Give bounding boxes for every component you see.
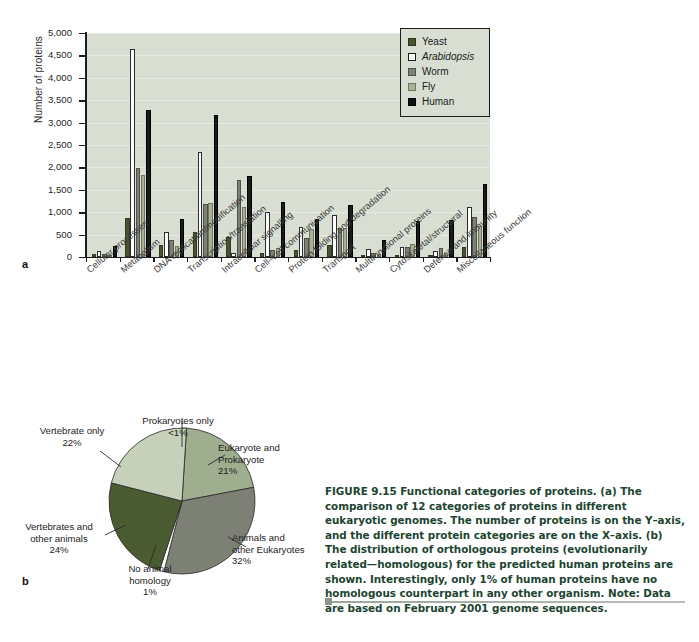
y-tick-mark bbox=[79, 55, 85, 56]
legend-label: Human bbox=[422, 97, 454, 107]
panel-a-bar-chart: Number of proteins 5,0004,5004,0003,5003… bbox=[0, 0, 699, 385]
bar-worm-2 bbox=[169, 240, 173, 257]
bar-fly-1 bbox=[141, 175, 145, 257]
bar-human-6 bbox=[315, 219, 319, 257]
bar-group bbox=[361, 33, 387, 257]
x-tick-mark bbox=[456, 257, 457, 262]
x-tick-mark bbox=[490, 257, 491, 262]
bar-fly-2 bbox=[175, 246, 179, 257]
bar-worm-4 bbox=[237, 180, 241, 258]
y-tick-mark bbox=[79, 167, 85, 168]
pie-label-vertebrates-other-animals: Vertebrates andother animals24% bbox=[5, 521, 113, 556]
y-tick-label: 0 bbox=[26, 252, 72, 262]
legend-swatch-icon bbox=[408, 53, 416, 61]
bar-arabidopsis-2 bbox=[164, 232, 168, 257]
y-tick-label: 2,000 bbox=[26, 162, 72, 172]
bar-arabidopsis-1 bbox=[130, 49, 134, 257]
bar-human-11 bbox=[483, 184, 487, 257]
bar-worm-7 bbox=[338, 228, 342, 257]
panel-b-letter: b bbox=[22, 575, 29, 587]
bar-human-3 bbox=[214, 115, 218, 257]
bar-group bbox=[193, 33, 219, 257]
bar-yeast-1 bbox=[125, 218, 129, 257]
bar-group bbox=[327, 33, 353, 257]
bar-fly-7 bbox=[343, 228, 347, 257]
figure-caption: FIGURE 9.15 Functional categories of pro… bbox=[325, 484, 687, 615]
bar-yeast-4 bbox=[226, 237, 230, 257]
bar-group bbox=[260, 33, 286, 257]
y-tick-mark bbox=[79, 33, 85, 34]
x-tick-mark bbox=[221, 257, 222, 262]
pie-label-text: other animals bbox=[5, 533, 113, 545]
bar-human-8 bbox=[382, 240, 386, 257]
pie-label-text: homology bbox=[96, 575, 204, 587]
x-tick-mark bbox=[86, 257, 87, 262]
y-tick-label: 1,500 bbox=[26, 185, 72, 195]
chart-legend: YeastArabidopsisWormFlyHuman bbox=[400, 28, 490, 117]
bar-fly-3 bbox=[208, 203, 212, 257]
bar-yeast-2 bbox=[159, 245, 163, 257]
legend-item-yeast: Yeast bbox=[408, 35, 482, 49]
y-tick-label: 4,500 bbox=[26, 50, 72, 60]
pie-label-percent: 22% bbox=[22, 437, 122, 449]
bar-worm-3 bbox=[203, 204, 207, 257]
legend-item-worm: Worm bbox=[408, 65, 482, 79]
y-tick-label: 1,000 bbox=[26, 207, 72, 217]
legend-label: Yeast bbox=[422, 37, 447, 47]
legend-item-fly: Fly bbox=[408, 80, 482, 94]
y-tick-label: 500 bbox=[26, 230, 72, 240]
bar-human-1 bbox=[146, 110, 150, 257]
bar-fly-4 bbox=[242, 207, 246, 257]
y-tick-label: 4,000 bbox=[26, 73, 72, 83]
y-tick-label: 5,000 bbox=[26, 28, 72, 38]
bar-fly-9 bbox=[410, 244, 414, 257]
x-tick-mark bbox=[355, 257, 356, 262]
y-tick-mark bbox=[79, 145, 85, 146]
bar-human-5 bbox=[281, 202, 285, 257]
y-tick-mark bbox=[79, 100, 85, 101]
y-tick-mark bbox=[79, 123, 85, 124]
bar-worm-1 bbox=[136, 168, 140, 257]
bar-fly-6 bbox=[309, 229, 313, 257]
x-tick-mark bbox=[423, 257, 424, 262]
legend-label: Arabidopsis bbox=[422, 52, 474, 62]
figure-number: FIGURE 9.15 bbox=[325, 485, 397, 497]
y-tick-mark bbox=[79, 212, 85, 213]
x-tick-mark bbox=[288, 257, 289, 262]
y-tick-mark bbox=[79, 235, 85, 236]
bar-group bbox=[226, 33, 252, 257]
x-tick-mark bbox=[322, 257, 323, 262]
pie-label-no-animal-homology: No animalhomology1% bbox=[96, 563, 204, 598]
bar-group bbox=[159, 33, 185, 257]
x-tick-mark bbox=[120, 257, 121, 262]
y-axis-tick-labels: 5,0004,5004,0003,5003,0002,5002,0001,500… bbox=[26, 0, 72, 260]
bar-arabidopsis-7 bbox=[332, 215, 336, 257]
bar-human-7 bbox=[348, 205, 352, 257]
bar-worm-6 bbox=[304, 238, 308, 257]
y-tick-mark bbox=[79, 78, 85, 79]
pie-label-percent: 24% bbox=[5, 544, 113, 556]
bar-human-4 bbox=[247, 176, 251, 257]
bar-fly-11 bbox=[478, 226, 482, 257]
bar-worm-11 bbox=[472, 217, 476, 257]
legend-label: Fly bbox=[422, 82, 435, 92]
y-tick-mark bbox=[79, 257, 85, 258]
pie-label-vertebrate-only: Vertebrate only22% bbox=[22, 425, 122, 448]
caption-body: Functional categories of proteins. (a) T… bbox=[325, 485, 685, 614]
pie-label-text: No animal bbox=[96, 563, 204, 575]
bar-arabidopsis-3 bbox=[198, 152, 202, 257]
legend-label: Worm bbox=[422, 67, 448, 77]
bar-arabidopsis-5 bbox=[265, 212, 269, 257]
pie-label-text: Vertebrates and bbox=[5, 521, 113, 533]
bar-yeast-7 bbox=[327, 245, 331, 257]
bar-group bbox=[294, 33, 320, 257]
pie-label-text: Prokaryote bbox=[218, 454, 328, 466]
legend-swatch-icon bbox=[408, 98, 416, 106]
bar-yeast-11 bbox=[462, 247, 466, 257]
bar-human-10 bbox=[449, 220, 453, 257]
legend-item-human: Human bbox=[408, 95, 482, 109]
pie-label-text: Prokaryotes only bbox=[113, 415, 243, 427]
caption-rule bbox=[332, 601, 685, 603]
x-tick-mark bbox=[153, 257, 154, 262]
bar-arabidopsis-6 bbox=[299, 227, 303, 257]
